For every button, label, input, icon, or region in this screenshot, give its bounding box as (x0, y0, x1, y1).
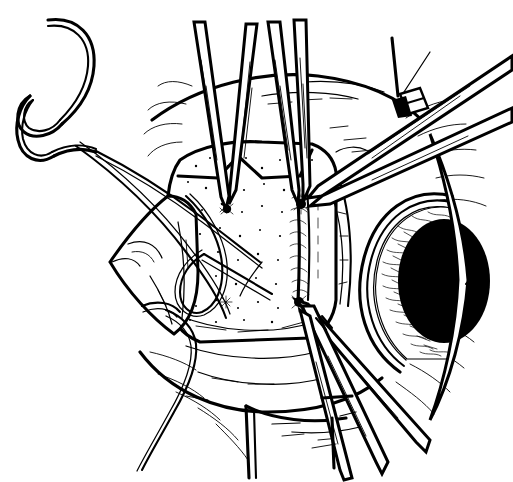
illustration-canvas (0, 0, 513, 482)
surgical-illustration-figure: Ophthalmic surgical procedure line drawi… (0, 0, 513, 482)
pupil (398, 219, 490, 343)
